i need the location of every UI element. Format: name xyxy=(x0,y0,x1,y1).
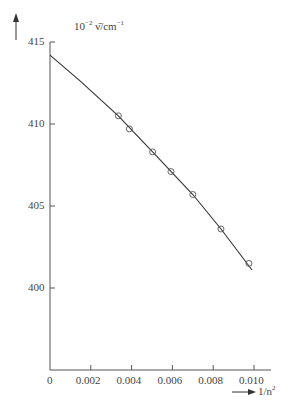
x-tick-label: 0.002 xyxy=(76,374,101,386)
fit-line xyxy=(50,55,252,270)
y-tick-label: 405 xyxy=(28,199,45,211)
y-tick-label: 415 xyxy=(28,35,45,47)
x-tick-label: 0 xyxy=(47,374,53,386)
y-tick-label: 410 xyxy=(28,117,45,129)
y-tick-label: 400 xyxy=(28,281,45,293)
x-tick-label: 0.004 xyxy=(117,374,142,386)
x-arrow-icon xyxy=(248,389,256,395)
x-tick-label: 0.006 xyxy=(157,374,182,386)
y-arrow-icon xyxy=(13,13,19,22)
y-axis-label: 10−2 ν̄/cm−1 xyxy=(74,19,124,32)
x-tick-label: 0.010 xyxy=(239,374,264,386)
x-tick-label: 0.008 xyxy=(198,374,223,386)
